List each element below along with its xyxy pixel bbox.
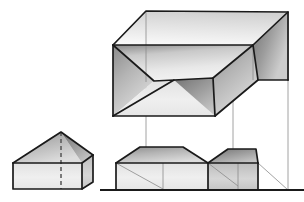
elevation-diagonal-right <box>258 163 288 190</box>
elevation-view <box>116 147 288 190</box>
technical-drawing-figure <box>0 0 304 202</box>
drawing-canvas <box>0 0 304 202</box>
reference-prism <box>13 132 93 189</box>
pictorial-view <box>113 11 288 116</box>
elevation-left-wall-face <box>116 163 208 189</box>
elevation-right-roof-face <box>208 149 258 163</box>
prism-front-wall-face <box>13 163 82 189</box>
elevation-right-wall-face <box>208 163 258 189</box>
